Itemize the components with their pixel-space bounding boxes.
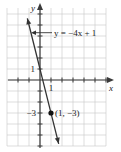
y-axis-arrow-icon — [37, 3, 43, 10]
graph: x y 1 1 −3 y = −4x + 1 (1, −3) — [0, 0, 121, 152]
y-axis-label: y — [30, 3, 35, 13]
y-tick-label-neg3: −3 — [26, 108, 36, 118]
y-tick-label-1: 1 — [31, 64, 36, 74]
point-label: (1, −3) — [55, 108, 80, 118]
x-axis-label: x — [108, 83, 113, 93]
equation-label: y = −4x + 1 — [54, 28, 96, 38]
data-point — [48, 110, 53, 115]
x-tick-label-1: 1 — [49, 83, 54, 93]
